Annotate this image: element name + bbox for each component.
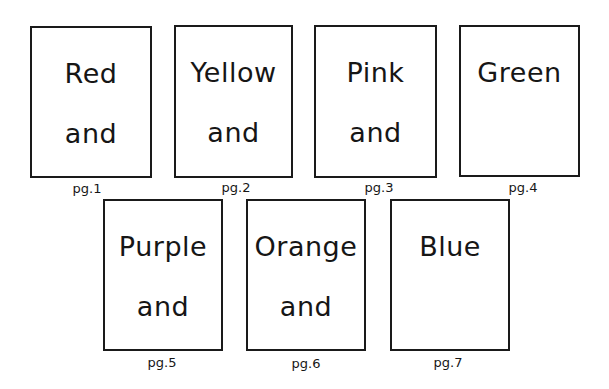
page-1: Red and [30, 26, 152, 178]
page-3-line-2: and [316, 117, 435, 148]
page-6-label: pg.6 [276, 356, 336, 371]
page-6-line-1: Orange [248, 231, 364, 262]
page-7-line-1: Blue [392, 231, 508, 262]
page-2-line-2: and [176, 117, 291, 148]
page-3-line-1: Pink [316, 57, 435, 88]
page-6-line-2: and [248, 291, 364, 322]
page-6: Orange and [246, 199, 366, 351]
page-7: Blue [390, 199, 510, 351]
page-1-label: pg.1 [57, 181, 117, 196]
page-5-label: pg.5 [132, 355, 192, 370]
page-3-label: pg.3 [349, 180, 409, 195]
page-1-line-2: and [32, 118, 150, 149]
page-2: Yellow and [174, 25, 293, 178]
page-7-label: pg.7 [418, 355, 478, 370]
page-3: Pink and [314, 25, 437, 178]
page-5-line-2: and [105, 291, 221, 322]
page-4-line-1: Green [461, 57, 578, 88]
page-5: Purple and [103, 199, 223, 351]
page-1-line-1: Red [32, 58, 150, 89]
page-4-label: pg.4 [493, 180, 553, 195]
page-5-line-1: Purple [105, 231, 221, 262]
page-4: Green [459, 25, 580, 177]
page-2-label: pg.2 [206, 180, 266, 195]
page-2-line-1: Yellow [176, 57, 291, 88]
